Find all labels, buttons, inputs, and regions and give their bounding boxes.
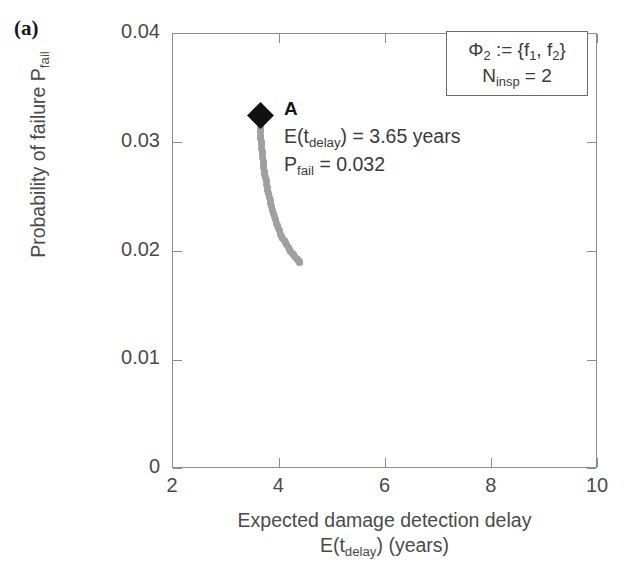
x-axis-tick <box>279 458 280 467</box>
y-axis-tick <box>173 33 182 34</box>
legend-box: Φ2 := {f1, f2} Ninsp = 2 <box>446 31 588 96</box>
y-axis-tick <box>173 251 182 252</box>
annotation-delay-value: ) = 3.65 years <box>341 125 461 147</box>
annotation-block: A E(tdelay) = 3.65 years Pfail = 0.032 <box>284 96 460 178</box>
y-axis-tick-label: 0.01 <box>10 346 160 369</box>
x-axis-tick-label: 2 <box>142 474 202 497</box>
pareto-front-point <box>296 259 303 266</box>
x-axis-tick-label: 6 <box>355 474 415 497</box>
annotation-pfail-subscript: fail <box>297 163 314 178</box>
y-axis-tick <box>173 360 182 361</box>
x-axis-tick <box>597 34 598 43</box>
x-axis-tick <box>385 34 386 43</box>
y-axis-tick <box>587 468 596 469</box>
y-axis-tick <box>173 468 182 469</box>
legend-phi-subscript: 2 <box>483 48 490 63</box>
x-axis-tick <box>279 34 280 43</box>
legend-f2-subscript: 2 <box>552 48 559 63</box>
legend-f1-subscript: 1 <box>529 48 536 63</box>
annotation-line-delay: E(tdelay) = 3.65 years <box>284 123 460 151</box>
annotation-point-label: A <box>284 96 460 123</box>
y-axis-tick-label: 0.02 <box>10 238 160 261</box>
legend-n-symbol: N <box>482 65 496 86</box>
legend-line-objectives: Φ2 := {f1, f2} <box>447 37 587 63</box>
x-axis-title-line1: Expected damage detection delay <box>172 508 597 533</box>
x-axis-tick <box>491 458 492 467</box>
y-axis-tick-label: 0.03 <box>10 129 160 152</box>
y-axis-tick-label: 0 <box>10 455 160 478</box>
y-axis-title: Probability of failure Pfail <box>27 0 50 335</box>
x-axis-title: Expected damage detection delay E(tdelay… <box>172 508 597 559</box>
legend-n-value: = 2 <box>520 65 552 86</box>
legend-n-subscript: insp <box>496 74 520 89</box>
legend-phi-symbol: Φ <box>468 39 483 60</box>
annotation-pfail-pre: P <box>284 153 297 175</box>
y-axis-tick <box>587 33 596 34</box>
y-axis-tick <box>587 360 596 361</box>
x-axis-title-line2-post: ) (years) <box>377 534 450 556</box>
y-axis-tick-label: 0.04 <box>10 20 160 43</box>
y-axis-title-text: Probability of failure P <box>27 68 49 258</box>
x-axis-tick <box>172 34 173 43</box>
annotation-line-pfail: Pfail = 0.032 <box>284 151 460 179</box>
y-axis-tick <box>173 142 182 143</box>
annotation-pfail-value: = 0.032 <box>314 153 385 175</box>
x-axis-tick-label: 8 <box>461 474 521 497</box>
optimal-solution-marker <box>247 102 274 129</box>
x-axis-title-line2: E(tdelay) (years) <box>172 533 597 558</box>
x-axis-tick <box>172 458 173 467</box>
x-axis-tick-label: 4 <box>248 474 308 497</box>
legend-f-separator: , f <box>536 39 552 60</box>
y-axis-tick <box>587 251 596 252</box>
legend-line-inspections: Ninsp = 2 <box>447 63 587 89</box>
x-axis-title-line2-pre: E(t <box>320 534 345 556</box>
y-axis-tick <box>587 142 596 143</box>
x-axis-title-line2-subscript: delay <box>345 544 377 559</box>
x-axis-tick <box>385 458 386 467</box>
legend-assign-open: := {f <box>491 39 530 60</box>
x-axis-tick-label: 10 <box>567 474 627 497</box>
legend-brace-close: } <box>559 39 565 60</box>
annotation-delay-subscript: delay <box>309 135 341 150</box>
x-axis-tick <box>597 458 598 467</box>
y-axis-title-subscript: fail <box>36 51 51 68</box>
annotation-delay-pre: E(t <box>284 125 309 147</box>
